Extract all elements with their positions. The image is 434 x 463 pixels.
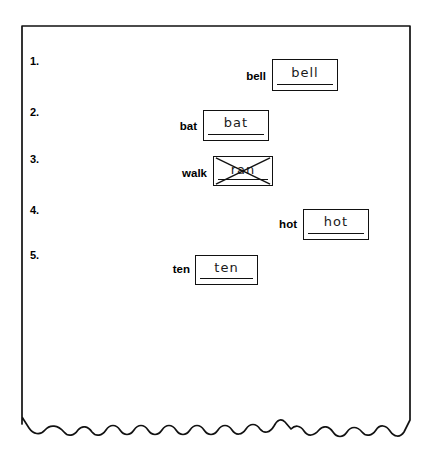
prompt-word-4: hot (279, 218, 297, 230)
answer-box-4[interactable]: hot (303, 209, 369, 240)
row-number-1: 1. (30, 55, 39, 67)
answer-box-1[interactable]: bell (272, 59, 338, 91)
answer-box-1-inner: bell (273, 60, 337, 90)
prompt-word-5: ten (173, 263, 190, 275)
prompt-word-3: walk (182, 167, 207, 179)
answer-box-4-inner: hot (304, 210, 368, 239)
handwritten-answer-5: ten (196, 260, 257, 275)
prompt-word-2: bat (180, 120, 197, 132)
answer-box-3[interactable]: ran (213, 156, 273, 186)
row-number-2: 2. (30, 106, 39, 118)
writing-rule-line-2 (208, 134, 263, 135)
answer-box-5-inner: ten (196, 256, 257, 284)
answer-box-3-inner: ran (214, 157, 272, 185)
answer-box-5[interactable]: ten (195, 255, 258, 285)
writing-rule-line-4 (308, 233, 363, 234)
answer-box-2[interactable]: bat (203, 110, 269, 141)
writing-rule-line-3 (218, 179, 268, 180)
prompt-word-1: bell (246, 70, 266, 82)
row-number-5: 5. (30, 249, 39, 261)
answer-box-2-inner: bat (204, 111, 268, 140)
handwritten-answer-2: bat (204, 115, 268, 130)
worksheet-row: 5. ten ten (0, 0, 434, 40)
handwritten-answer-4: hot (304, 214, 368, 229)
writing-rule-line-5 (200, 278, 252, 279)
row-number-3: 3. (30, 153, 39, 165)
handwritten-answer-1: bell (273, 65, 337, 80)
handwritten-answer-3: ran (214, 162, 272, 177)
spelling-worksheet-sheet: 1. bell bell 2. bat bat 3. walk ran (0, 0, 434, 463)
row-number-4: 4. (30, 204, 39, 216)
writing-rule-line-1 (277, 84, 332, 85)
